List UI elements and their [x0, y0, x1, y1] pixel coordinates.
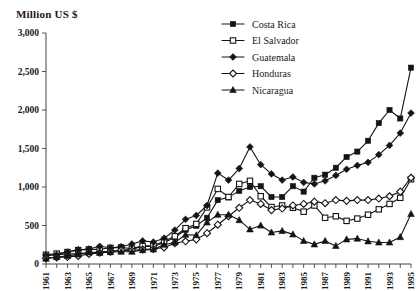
y-tick-label: 0: [34, 259, 39, 269]
x-tick-label: 1981: [256, 272, 266, 291]
legend-label: Guatemala: [252, 52, 296, 63]
x-tick-label: 1975: [191, 272, 201, 291]
y-axis: 05001,0001,5002,0002,5003,000: [18, 28, 46, 269]
x-tick-label: 1985: [299, 272, 309, 291]
legend-item-nicaragua[interactable]: Nicaragua: [222, 85, 294, 96]
legend-item-el-salvador[interactable]: El Salvador: [222, 35, 300, 46]
x-tick-label: 1991: [363, 272, 373, 291]
y-tick-label: 2,500: [18, 67, 40, 77]
x-tick-label: 1965: [84, 272, 94, 291]
x-tick-label: 1967: [106, 272, 116, 291]
legend-item-honduras[interactable]: Honduras: [222, 68, 291, 79]
chart-figure: Million US $ 05001,0001,5002,0002,5003,0…: [0, 0, 416, 291]
x-tick-label: 1969: [127, 272, 137, 291]
legend-label: El Salvador: [252, 35, 300, 46]
legend-item-costa-rica[interactable]: Costa Rica: [222, 19, 296, 30]
line-chart-plot: 05001,0001,5002,0002,5003,000 1961196319…: [0, 0, 416, 291]
series-guatemala: [43, 110, 415, 259]
series-costa-rica: [43, 65, 413, 258]
x-tick-label: 1973: [170, 272, 180, 291]
legend-label: Honduras: [252, 68, 291, 79]
x-tick-label: 1961: [41, 272, 51, 291]
x-tick-label: 1971: [149, 272, 159, 291]
y-tick-label: 1,000: [18, 182, 40, 192]
x-tick-label: 1987: [320, 272, 330, 291]
series-layer: [43, 65, 415, 262]
x-tick-label: 1995: [406, 272, 416, 291]
x-tick-label: 1989: [342, 272, 352, 291]
legend-item-guatemala[interactable]: Guatemala: [222, 52, 296, 63]
y-tick-label: 3,000: [18, 28, 40, 38]
x-tick-label: 1977: [213, 272, 223, 291]
x-tick-label: 1993: [385, 272, 395, 291]
x-tick-label: 1983: [277, 272, 287, 291]
legend-label: Costa Rica: [252, 19, 296, 30]
x-tick-label: 1979: [234, 272, 244, 291]
y-tick-label: 1,500: [18, 144, 40, 154]
y-tick-label: 2,000: [18, 105, 40, 115]
legend-label: Nicaragua: [252, 85, 294, 96]
x-axis: 1961196319651967196919711973197519771979…: [41, 264, 416, 290]
x-tick-label: 1963: [63, 272, 73, 291]
chart-legend: Costa RicaEl SalvadorGuatemalaHondurasNi…: [222, 19, 300, 96]
y-tick-label: 500: [25, 221, 40, 231]
